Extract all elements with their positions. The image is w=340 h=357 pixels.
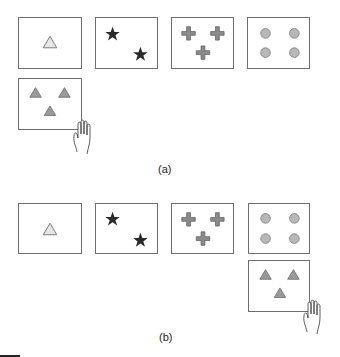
card-two-stars — [95, 17, 158, 69]
card-two-stars — [95, 203, 158, 254]
card-four-circles — [248, 203, 310, 254]
hand-cursor-icon — [70, 112, 100, 156]
circle-icon — [249, 204, 309, 253]
circle-icon — [248, 18, 309, 68]
triangle-icon — [19, 204, 81, 253]
cross-icon — [172, 18, 233, 68]
card-three-crosses — [171, 203, 234, 254]
triangle-icon — [19, 18, 81, 68]
panel-label-a: (a) — [158, 163, 171, 175]
card-one-triangle — [18, 17, 82, 69]
card-four-circles — [247, 17, 310, 69]
panel-label-b: (b) — [159, 331, 172, 343]
card-one-triangle — [18, 203, 82, 254]
cross-icon — [172, 204, 233, 253]
card-three-crosses — [171, 17, 234, 69]
star-icon — [96, 18, 157, 68]
hand-cursor-icon — [300, 292, 330, 336]
star-icon — [96, 204, 157, 253]
